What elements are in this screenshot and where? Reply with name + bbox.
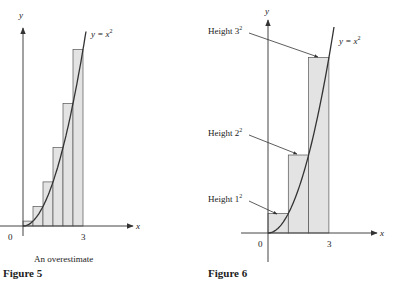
fig5-subtitle: An overestimate bbox=[34, 254, 93, 264]
fig5-tick-3: 3 bbox=[81, 232, 86, 242]
fig6-x-label: x bbox=[379, 228, 384, 238]
fig6-tick-0: 0 bbox=[258, 239, 263, 249]
fig5-y-label: y bbox=[18, 10, 23, 20]
fig6-curve-label: y = x2 bbox=[338, 35, 361, 46]
arrow-height-1 bbox=[249, 201, 277, 214]
arrow-height-2 bbox=[249, 135, 297, 154]
rectangle bbox=[268, 214, 288, 234]
fig6-y-label: y bbox=[264, 6, 269, 16]
figure-6: y x y = x2 0 3 Height 32 Height 22 Heigh… bbox=[208, 6, 384, 279]
fig5-x-label: x bbox=[135, 221, 140, 231]
annotation-height-3: Height 32 bbox=[208, 25, 242, 36]
annotation-height-1: Height 12 bbox=[208, 193, 242, 204]
rectangle bbox=[63, 104, 73, 227]
arrow-height-3 bbox=[249, 33, 318, 57]
fig5-tick-0: 0 bbox=[8, 232, 13, 242]
annotation-height-2: Height 22 bbox=[208, 127, 242, 138]
fig6-caption: Figure 6 bbox=[208, 267, 248, 279]
rectangle bbox=[53, 148, 63, 226]
fig6-rectangles bbox=[268, 58, 329, 234]
figures-canvas: y x y = x2 0 3 An overestimate Figure 5 … bbox=[0, 0, 396, 288]
fig5-rectangles bbox=[23, 50, 83, 226]
figure-5: y x y = x2 0 3 An overestimate Figure 5 bbox=[0, 10, 140, 279]
fig5-curve-label: y = x2 bbox=[90, 28, 113, 39]
fig6-tick-3: 3 bbox=[327, 239, 332, 249]
fig5-caption: Figure 5 bbox=[3, 267, 43, 279]
